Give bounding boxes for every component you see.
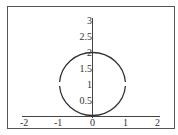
y-tick-label: 2	[87, 47, 92, 58]
x-tick-label: -2	[20, 117, 28, 128]
y-tick-label: 1	[87, 79, 92, 90]
y-tick-label: 2.5	[80, 31, 93, 42]
x-tick-label: 2	[155, 117, 160, 128]
plot-area: -2 -1 0 1 2 0.5 1 1.5 2 2.5 3	[0, 0, 178, 135]
y-tick-label: 0.5	[80, 95, 93, 106]
x-tick-label: 0	[90, 117, 95, 128]
y-tick-label: 1.5	[80, 63, 93, 74]
y-tick-label: 3	[87, 15, 92, 26]
x-tick-label: 1	[123, 117, 128, 128]
x-tick-label: -1	[54, 117, 62, 128]
